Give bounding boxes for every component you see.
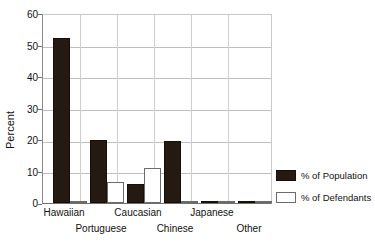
legend-swatch-defendants-icon (276, 192, 296, 203)
legend-item-population: % of Population (276, 164, 375, 186)
bar-population-caucasian (127, 184, 144, 203)
chart-title-cutoff (48, 0, 278, 2)
bar-defendants-chinese (181, 201, 198, 203)
category-separator-5 (228, 15, 229, 203)
bar-population-portuguese (90, 140, 107, 203)
y-tick-label-30: 30 (14, 105, 38, 115)
gridline-50 (43, 47, 271, 48)
gridline-30 (43, 110, 271, 111)
gridline-20 (43, 142, 271, 143)
x-tick-label-japanese: Japanese (180, 208, 244, 218)
x-tick-label-caucasian: Caucasian (106, 208, 170, 218)
x-tick-label-chinese: Chinese (143, 224, 207, 234)
plot-area (42, 14, 272, 204)
bar-defendants-japanese (218, 201, 235, 204)
x-tick-label-hawaiian: Hawaiian (32, 208, 96, 218)
y-tick-label-40: 40 (14, 73, 38, 83)
legend-label-population: % of Population (301, 170, 368, 181)
category-separator-4 (191, 15, 192, 203)
bar-population-other (238, 201, 255, 203)
y-tick-label-10: 10 (14, 168, 38, 178)
gridline-40 (43, 78, 271, 79)
y-tick-mark-0 (38, 204, 42, 205)
y-tick-label-60: 60 (14, 10, 38, 20)
category-separator-1 (80, 15, 81, 203)
bar-defendants-other (255, 201, 272, 204)
bar-defendants-caucasian (144, 168, 161, 203)
bar-population-chinese (164, 141, 181, 203)
y-tick-label-50: 50 (14, 42, 38, 52)
category-separator-2 (117, 15, 118, 203)
y-tick-label-20: 20 (14, 136, 38, 146)
x-tick-label-other: Other (217, 224, 281, 234)
bar-chart: Percent 60 50 40 30 20 10 0 (0, 0, 375, 242)
x-tick-label-portuguese: Portuguese (69, 224, 133, 234)
legend-label-defendants: % of Defendants (301, 192, 371, 203)
bar-population-japanese (201, 201, 218, 203)
legend-item-defendants: % of Defendants (276, 186, 375, 208)
chart-legend: % of Population % of Defendants (276, 164, 375, 208)
bar-defendants-portuguese (107, 182, 124, 203)
bar-defendants-hawaiian (70, 201, 87, 203)
legend-swatch-population-icon (276, 170, 296, 181)
bar-population-hawaiian (53, 38, 70, 203)
